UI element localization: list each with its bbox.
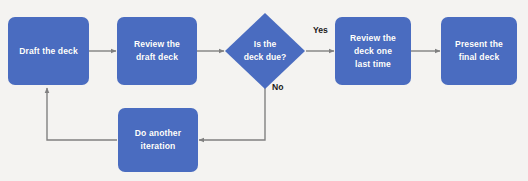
node-label: Draft the deck xyxy=(8,45,89,58)
flowchart-diagram: Draft the deck Review the draft deck Is … xyxy=(0,0,528,181)
node-label: Is the deck due? xyxy=(225,13,305,89)
node-present-the-final-deck[interactable]: Present the final deck xyxy=(441,17,517,85)
node-review-the-draft-deck[interactable]: Review the draft deck xyxy=(117,17,197,85)
node-label: Review the deck one last time xyxy=(335,32,411,71)
connector-decision-no-to-iterate xyxy=(199,88,265,140)
edge-label-no: No xyxy=(272,82,283,92)
node-label: Review the draft deck xyxy=(117,38,197,64)
node-label: Do another iteration xyxy=(118,127,198,153)
edge-label-yes: Yes xyxy=(313,25,328,35)
node-draft-the-deck[interactable]: Draft the deck xyxy=(8,17,89,85)
node-label: Present the final deck xyxy=(441,38,517,64)
node-is-the-deck-due[interactable]: Is the deck due? xyxy=(225,13,305,89)
connector-iterate-to-draft xyxy=(47,88,117,140)
node-do-another-iteration[interactable]: Do another iteration xyxy=(118,108,198,172)
node-review-the-deck-one-last-time[interactable]: Review the deck one last time xyxy=(335,17,411,85)
